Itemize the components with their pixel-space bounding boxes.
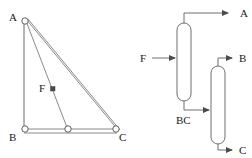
flowsheet-diagram: A F BC B C (140, 7, 248, 156)
vertex-marker-a (22, 18, 28, 24)
stream-line-column2-bottoms (218, 144, 232, 150)
distillation-column-2 (211, 66, 225, 144)
label-vertex-b: B (9, 131, 16, 143)
stream-line-bc (184, 101, 209, 110)
label-stream-feed: F (140, 52, 146, 64)
label-stream-b: B (239, 52, 246, 64)
triangle-tie-line-a-to-mid (26, 21, 68, 130)
label-stream-a: A (240, 7, 248, 19)
vertex-marker-b (22, 126, 28, 132)
label-feed-point: F (39, 82, 45, 94)
label-vertex-a: A (9, 11, 17, 23)
label-vertex-c: C (119, 131, 126, 143)
triangle-edge-ac-inner (28, 19, 120, 130)
label-stream-bc: BC (176, 114, 191, 126)
label-stream-c: C (239, 144, 246, 156)
triangle-diagram: A B C F (9, 11, 126, 143)
figure-svg: A B C F A F BC B C (0, 0, 252, 158)
vertex-marker-bc-midpoint (65, 126, 71, 132)
triangle-edge-ac-outer (26, 19, 118, 130)
figure-canvas: A B C F A F BC B C (0, 0, 252, 158)
feed-point-marker (51, 87, 56, 92)
stream-line-column1-overhead (184, 13, 228, 23)
distillation-column-1 (177, 23, 191, 101)
stream-line-column2-overhead (218, 58, 232, 66)
